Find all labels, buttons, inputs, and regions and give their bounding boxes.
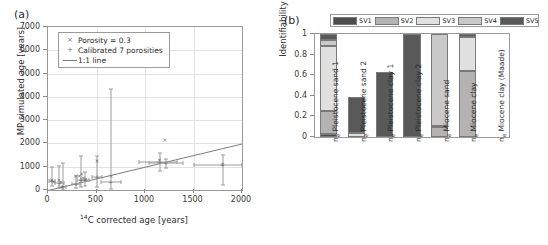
legend-item-sv4: SV4 bbox=[458, 17, 497, 25]
y-axis-tick bbox=[310, 33, 314, 34]
panel-a: (a) MP simulated age [years] +++++++++++… bbox=[0, 0, 274, 245]
panel-b-plot-area bbox=[314, 33, 510, 138]
legend-label-sv1: SV1 bbox=[359, 17, 372, 25]
error-bar-cap bbox=[148, 161, 149, 165]
data-point-calibrated: + bbox=[163, 160, 168, 166]
y-axis-tick-label: 5000 bbox=[20, 68, 40, 77]
x-axis-category-label: ne Pleistocene clay 1 bbox=[386, 64, 396, 142]
bar-segment-sv5 bbox=[320, 34, 337, 40]
legend-item-sv3: SV3 bbox=[416, 17, 455, 25]
legend-item-sv5: SV5 bbox=[500, 17, 539, 25]
legend-item-porosity: × Porosity = 0.3 bbox=[62, 35, 166, 45]
y-axis-tick-label: 2000 bbox=[20, 138, 40, 147]
error-bar-cap bbox=[83, 186, 87, 187]
legend-swatch-sv2 bbox=[375, 17, 399, 25]
legend-swatch-sv5 bbox=[500, 17, 524, 25]
panel-a-y-axis-title: MP simulated age [years] bbox=[16, 16, 26, 146]
cat-rest: Pleistocene clay 2 bbox=[414, 64, 423, 134]
y-axis-tick bbox=[310, 74, 314, 75]
y-axis-tick bbox=[310, 115, 314, 116]
error-bar-cap bbox=[102, 175, 103, 179]
error-bar-cap bbox=[158, 152, 162, 153]
y-axis-tick bbox=[310, 95, 314, 96]
x-axis-category-label: ne Miocene clay bbox=[469, 83, 479, 142]
cat-subscript: e bbox=[390, 134, 396, 137]
x-axis-tick bbox=[144, 189, 145, 193]
x-axis-title-superscript: 14 bbox=[80, 213, 88, 220]
cat-subscript: e bbox=[501, 134, 507, 137]
error-bar-cap bbox=[100, 180, 101, 184]
error-bar-cap bbox=[72, 182, 73, 186]
cat-subscript: e bbox=[335, 134, 341, 137]
cat-rest: Pleistocene sand 1 bbox=[331, 61, 340, 134]
cat-prefix: n bbox=[386, 137, 395, 142]
y-axis-tick bbox=[43, 166, 47, 167]
legend-label-sv4: SV4 bbox=[484, 17, 497, 25]
error-bar-cap bbox=[158, 171, 162, 172]
marker-plus-icon: + bbox=[62, 46, 78, 54]
x-axis-tick-label: 500 bbox=[88, 195, 103, 204]
figure-root: (a) MP simulated age [years] +++++++++++… bbox=[0, 0, 548, 245]
legend-label-porosity: Porosity = 0.3 bbox=[78, 36, 131, 45]
gridline-horizontal bbox=[48, 97, 242, 98]
cat-prefix: n bbox=[359, 137, 368, 142]
y-axis-tick-label: 1 bbox=[302, 29, 307, 38]
x-axis-tick bbox=[96, 189, 97, 193]
cat-rest: Miocene clay bbox=[469, 83, 478, 134]
legend-item-oneone: 1:1 line bbox=[62, 55, 166, 65]
y-axis-tick bbox=[43, 26, 47, 27]
y-axis-tick bbox=[43, 189, 47, 190]
y-axis-tick bbox=[310, 136, 314, 137]
legend-label-oneone: 1:1 line bbox=[78, 56, 106, 65]
error-bar-cap bbox=[221, 154, 225, 155]
cat-subscript: e bbox=[418, 134, 424, 137]
data-point-calibrated: + bbox=[94, 174, 99, 180]
error-bar-cap bbox=[66, 185, 67, 189]
data-point-porosity: × bbox=[94, 158, 99, 164]
y-axis-tick bbox=[310, 54, 314, 55]
x-axis-category-label: ne Miocene clay (Maade) bbox=[497, 49, 507, 142]
cat-prefix: n bbox=[331, 137, 340, 142]
error-bar-cap bbox=[109, 188, 113, 189]
error-bar-cap bbox=[164, 167, 168, 168]
y-axis-tick-label: 0.4 bbox=[294, 90, 307, 99]
y-axis-tick-label: 0.6 bbox=[294, 70, 307, 79]
legend-label-sv2: SV2 bbox=[401, 17, 414, 25]
bar-segment-sv4 bbox=[320, 40, 337, 46]
panel-a-x-axis-title: 14C corrected age [years] bbox=[80, 213, 188, 225]
data-point-calibrated: + bbox=[108, 179, 113, 185]
cat-subscript: e bbox=[363, 134, 369, 137]
error-bar-cap bbox=[138, 160, 139, 164]
bar-segment-sv5 bbox=[459, 34, 476, 37]
x-axis-tick-label: 1000 bbox=[134, 195, 154, 204]
error-bar-cap bbox=[221, 185, 225, 186]
cat-prefix: n bbox=[442, 137, 451, 142]
x-axis-tick-label: 1500 bbox=[182, 195, 202, 204]
error-bar-cap bbox=[242, 163, 243, 167]
x-axis-tick bbox=[47, 189, 48, 193]
error-bar-cap bbox=[89, 178, 90, 182]
panel-a-legend: × Porosity = 0.3 + Calibrated 7 porositi… bbox=[58, 32, 170, 68]
error-bar-horizontal bbox=[194, 164, 243, 165]
data-point-porosity: × bbox=[220, 161, 225, 167]
cat-prefix: n bbox=[497, 137, 506, 142]
y-axis-tick bbox=[43, 73, 47, 74]
x-axis-tick bbox=[193, 189, 194, 193]
legend-label-sv5: SV5 bbox=[526, 17, 539, 25]
x-axis-category-label: ne Pleistocene clay 2 bbox=[414, 64, 424, 142]
legend-item-calibrated: + Calibrated 7 porosities bbox=[62, 45, 166, 55]
error-bar-cap bbox=[182, 161, 183, 165]
y-axis-tick bbox=[43, 96, 47, 97]
gridline-horizontal bbox=[48, 74, 242, 75]
cat-subscript: e bbox=[446, 134, 452, 137]
cat-rest: Pleistocene sand 2 bbox=[359, 61, 368, 134]
y-axis-tick-label: 0.2 bbox=[294, 111, 307, 120]
y-axis-tick bbox=[43, 142, 47, 143]
cat-prefix: n bbox=[469, 137, 478, 142]
error-bar-cap bbox=[95, 187, 99, 188]
data-point-porosity: × bbox=[162, 137, 167, 143]
legend-item-sv2: SV2 bbox=[375, 17, 414, 25]
y-axis-tick-label: 6000 bbox=[20, 45, 40, 54]
marker-x-icon: × bbox=[62, 36, 78, 44]
error-bar-cap bbox=[193, 163, 194, 167]
